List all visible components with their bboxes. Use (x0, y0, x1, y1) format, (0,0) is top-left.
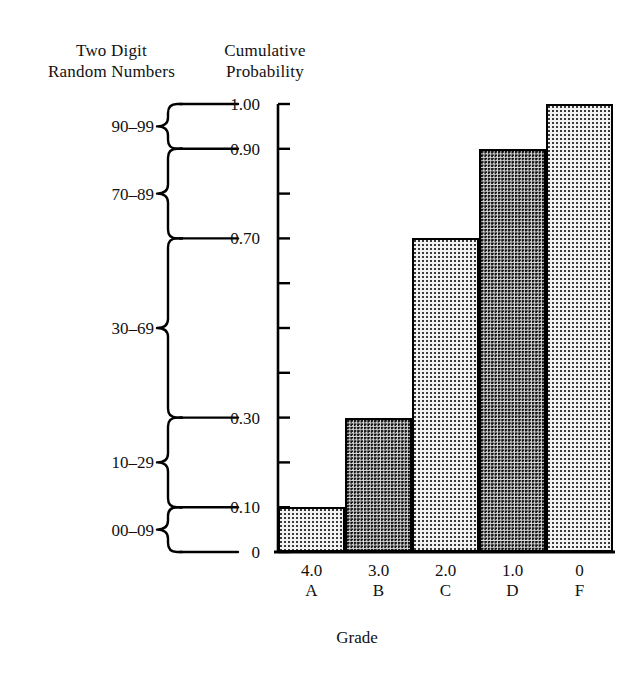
x-tick-grade-letter: C (412, 581, 479, 601)
brace-group-icon (140, 96, 240, 560)
plot-area (278, 104, 613, 552)
random-numbers-header-line1: Two Digit (24, 40, 199, 61)
y-tick-label: 0 (202, 544, 260, 561)
x-tick-grade-letter: A (278, 581, 345, 601)
cumulative-probability-chart: Two Digit Random Numbers Cumulative Prob… (0, 0, 644, 678)
y-tick-label: 0.90 (202, 140, 260, 157)
y-tick-label: 1.00 (202, 96, 260, 113)
bar-b (345, 418, 412, 552)
random-number-range-label: 90–99 (112, 118, 155, 135)
x-tick-grade-point: 4.0 (278, 561, 345, 581)
y-tick-label: 0.30 (202, 409, 260, 426)
random-numbers-header-line2: Random Numbers (24, 61, 199, 82)
x-tick-grade-point: 0 (546, 561, 613, 581)
bar-c (412, 238, 479, 552)
x-tick-c: 2.0C (412, 561, 479, 601)
x-tick-grade-letter: F (546, 581, 613, 601)
bar-f (546, 104, 613, 552)
x-tick-grade-point: 1.0 (479, 561, 546, 581)
cumulative-probability-header: Cumulative Probability (205, 40, 325, 82)
x-tick-grade-point: 2.0 (412, 561, 479, 581)
x-tick-grade-letter: D (479, 581, 546, 601)
random-number-range-label: 70–89 (112, 185, 155, 202)
x-axis (272, 545, 620, 559)
bar-d (479, 149, 546, 552)
x-axis-title-text: Grade (336, 628, 378, 647)
x-tick-f: 0F (546, 561, 613, 601)
y-tick-label: 0.70 (202, 230, 260, 247)
random-number-brace-band: 90–9970–8930–6910–2900–09 (140, 96, 240, 560)
cumulative-probability-header-line2: Probability (205, 61, 325, 82)
random-number-range-label: 00–09 (112, 521, 155, 538)
x-tick-d: 1.0D (479, 561, 546, 601)
random-number-range-label: 30–69 (112, 320, 155, 337)
random-numbers-header: Two Digit Random Numbers (24, 40, 199, 82)
x-tick-a: 4.0A (278, 561, 345, 601)
y-tick-label: 0.10 (202, 499, 260, 516)
random-number-range-label: 10–29 (112, 454, 155, 471)
cumulative-probability-header-line1: Cumulative (205, 40, 325, 61)
x-tick-b: 3.0B (345, 561, 412, 601)
x-axis-title: Grade (0, 628, 644, 648)
x-tick-grade-letter: B (345, 581, 412, 601)
x-tick-grade-point: 3.0 (345, 561, 412, 581)
